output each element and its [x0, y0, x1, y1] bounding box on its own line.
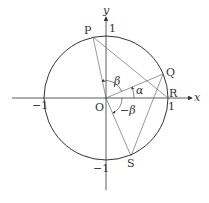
- tick-label-y-neg: −1: [93, 162, 109, 175]
- point-label-R: R: [169, 87, 178, 100]
- unit-circle-diagram: x y 1 −1 1 −1 O P Q R S α β −β: [0, 0, 209, 203]
- angle-label-alpha: α: [136, 84, 144, 97]
- point-label-P: P: [84, 24, 92, 37]
- tick-label-x-pos: 1: [168, 100, 175, 113]
- x-axis-label: x: [194, 91, 201, 104]
- point-label-S: S: [127, 157, 135, 170]
- y-axis-label: y: [102, 4, 110, 17]
- tick-label-x-neg: −1: [32, 99, 48, 112]
- point-label-Q: Q: [166, 66, 175, 79]
- point-label-origin: O: [95, 101, 104, 114]
- angle-label-beta: β: [113, 75, 120, 88]
- angle-label-neg-beta: −β: [120, 104, 136, 117]
- angle-arc-alpha: [132, 87, 134, 98]
- tick-label-y-pos: 1: [109, 22, 116, 35]
